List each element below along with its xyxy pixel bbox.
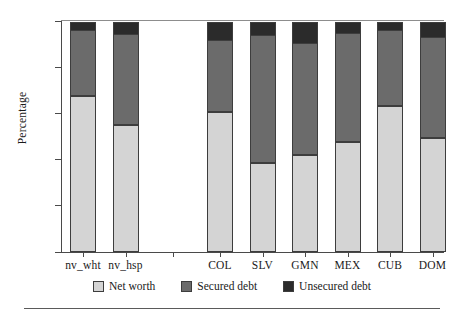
bar-segment[interactable] [292,22,318,44]
bar-segment[interactable] [113,125,139,252]
x-axis-line [61,252,444,253]
bar-GMN[interactable] [292,23,318,252]
bar-segment[interactable] [250,22,276,36]
chart-legend: Net worthSecured debtUnsecured debt [0,280,464,292]
y-tick-mark [55,159,61,160]
y-axis-label: Percentage [16,63,28,173]
legend-label: Secured debt [197,280,257,292]
bar-segment[interactable] [292,43,318,155]
bar-segment[interactable] [250,163,276,252]
bar-segment[interactable] [250,35,276,163]
bar-CUB[interactable] [377,23,403,252]
bar-segment[interactable] [207,112,233,252]
y-tick-mark [55,113,61,114]
bar-COL[interactable] [207,23,233,252]
y-tick-mark [55,252,61,253]
x-tick-nv_wht [83,252,84,257]
bar-nv_hsp[interactable] [113,23,139,252]
bar-segment[interactable] [113,34,139,125]
bar-series-container [62,21,444,252]
bar-segment[interactable] [420,138,446,252]
legend-swatch-icon [93,281,104,292]
bar-SLV[interactable] [250,23,276,252]
x-axis-label-DOM: DOM [393,258,464,273]
bar-segment[interactable] [335,142,361,252]
bar-segment[interactable] [70,96,96,252]
x-axis-label-nv_hsp: nv_hsp [86,258,166,273]
y-tick-mark [55,205,61,206]
bar-segment[interactable] [335,33,361,143]
x-tick-CUB [390,252,391,257]
chart-figure: Percentage 020406080100 nv_whtnv_hspCOLS… [0,0,464,319]
legend-item[interactable]: Secured debt [181,280,257,292]
x-tick-SLV [263,252,264,257]
bar-segment[interactable] [420,22,446,38]
footer-rule [24,308,440,309]
bar-segment[interactable] [70,30,96,96]
bar-segment[interactable] [420,37,446,137]
legend-item[interactable]: Unsecured debt [283,280,371,292]
bar-segment[interactable] [207,22,233,40]
bar-segment[interactable] [292,155,318,252]
x-tick-gap [173,252,174,257]
plot-area [62,21,444,252]
legend-item[interactable]: Net worth [93,280,155,292]
legend-label: Unsecured debt [299,280,371,292]
bar-MEX[interactable] [335,23,361,252]
bar-nv_wht[interactable] [70,23,96,252]
bar-segment[interactable] [207,40,233,113]
x-tick-MEX [348,252,349,257]
legend-label: Net worth [109,280,155,292]
x-tick-nv_hsp [126,252,127,257]
bar-DOM[interactable] [420,23,446,252]
y-tick-mark [55,21,61,22]
x-tick-COL [220,252,221,257]
bar-segment[interactable] [377,30,403,106]
y-tick-mark [55,67,61,68]
x-tick-GMN [305,252,306,257]
legend-swatch-icon [181,281,192,292]
x-tick-DOM [433,252,434,257]
legend-swatch-icon [283,281,294,292]
bar-segment[interactable] [377,106,403,252]
